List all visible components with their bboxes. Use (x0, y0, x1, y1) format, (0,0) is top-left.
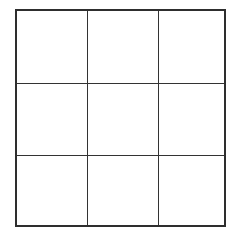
board-cell-r1c2[interactable] (88, 11, 159, 84)
board-cell-r1c1[interactable] (17, 11, 88, 84)
board-cell-r2c1[interactable] (17, 84, 88, 156)
board-cell-r3c3[interactable] (159, 156, 224, 225)
board-cell-r3c1[interactable] (17, 156, 88, 225)
board-cell-r2c2[interactable] (88, 84, 159, 156)
board-cell-r2c3[interactable] (159, 84, 224, 156)
board-cell-r3c2[interactable] (88, 156, 159, 225)
tic-tac-toe-board (15, 9, 226, 227)
board-cell-r1c3[interactable] (159, 11, 224, 84)
